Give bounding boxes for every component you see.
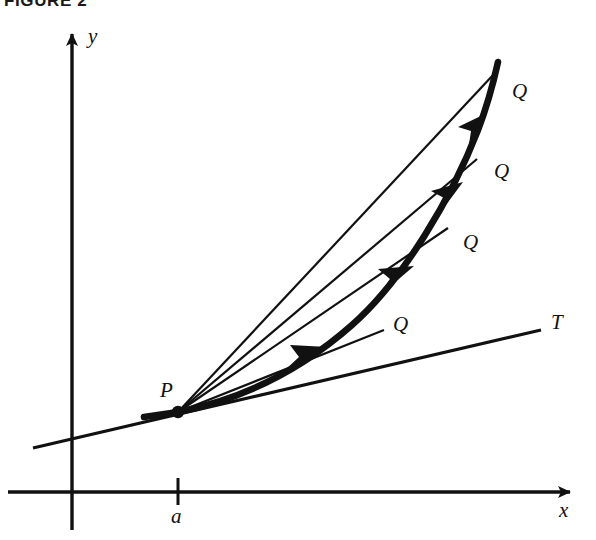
y-axis-label: y xyxy=(88,26,97,47)
x-axis-tick-label-a: a xyxy=(171,506,182,527)
curve-direction-arrow-3 xyxy=(378,266,414,296)
x-axis-label: x xyxy=(559,500,568,521)
point-label-q-2: Q xyxy=(494,161,509,182)
point-label-q-1: Q xyxy=(512,81,527,102)
secant-line-2 xyxy=(178,159,477,412)
curve-direction-arrow-4 xyxy=(285,345,328,370)
point-p-marker xyxy=(172,406,184,418)
point-label-q-4: Q xyxy=(393,314,408,335)
tangent-line-label-t: T xyxy=(551,312,563,333)
plot-canvas xyxy=(0,0,596,540)
tangent-line xyxy=(33,330,541,448)
figure-container: FIGURE 2 xyxy=(0,0,596,540)
point-label-p: P xyxy=(160,380,173,401)
secant-line-1 xyxy=(178,74,494,412)
point-label-q-3: Q xyxy=(463,232,478,253)
function-curve xyxy=(144,62,498,417)
